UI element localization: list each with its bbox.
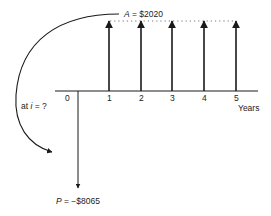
axis-unit-label: Years (238, 104, 259, 113)
period-label-5: 5 (234, 94, 239, 103)
interest-rate-label: at i = ? (21, 102, 47, 111)
annuity-label: A = $2020 (124, 10, 163, 19)
equivalence-curve-arrow (16, 14, 119, 152)
period-label-0: 0 (65, 94, 70, 103)
period-label-4: 4 (202, 94, 207, 103)
present-value-label: P = −$8065 (56, 197, 100, 206)
period-label-3: 3 (170, 94, 175, 103)
period-label-2: 2 (139, 94, 144, 103)
period-label-1: 1 (107, 94, 112, 103)
